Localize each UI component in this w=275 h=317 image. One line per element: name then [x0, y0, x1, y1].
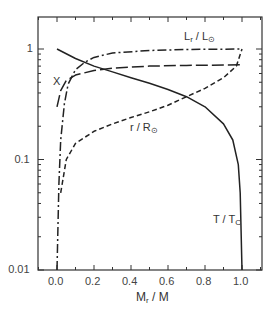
x-tick-label: 0.0 [48, 275, 63, 287]
label-L-sun: ⊙ [208, 35, 215, 44]
data-curves [57, 49, 242, 270]
label-L-sep: / L [193, 30, 208, 42]
label-luminosity: Lr / L⊙ [184, 30, 215, 44]
y-tick-label: 0.1 [14, 153, 29, 165]
x-tick-label: 0.8 [196, 275, 211, 287]
label-T-c: C [235, 218, 241, 227]
xlabel-rest: / M [149, 290, 169, 304]
x-tick-label: 0.2 [85, 275, 100, 287]
label-T: T / T [213, 213, 235, 225]
curve-x [57, 65, 242, 107]
curve-l-r-l-sun [57, 49, 242, 270]
label-r: r / R [130, 121, 151, 133]
y-tick-label: 0.01 [8, 263, 29, 275]
x-tick-label: 0.4 [122, 275, 137, 287]
y-tick-label: 1 [27, 42, 33, 54]
label-radius: r / R⊙ [130, 121, 158, 135]
axis-ticks [38, 17, 262, 270]
x-axis-label: Mr / M [136, 290, 169, 305]
chart-plot [0, 0, 275, 317]
plot-frame [38, 17, 262, 270]
x-tick-label: 1.0 [233, 275, 248, 287]
x-tick-label: 0.6 [159, 275, 174, 287]
curve-t-t-c [57, 49, 242, 270]
xlabel-M: M [136, 290, 146, 304]
label-r-sun: ⊙ [151, 126, 158, 135]
label-hydrogen-fraction: X [53, 75, 60, 87]
label-temperature: T / TC [213, 213, 241, 227]
